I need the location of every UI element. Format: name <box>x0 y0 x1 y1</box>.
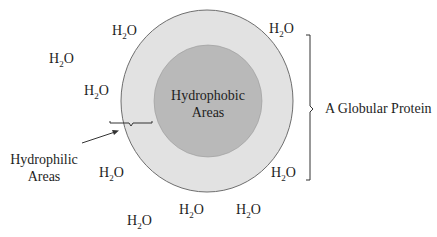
globular-protein-diagram: Hydrophobic Areas Hydrophilic Areas A Gl… <box>0 0 437 237</box>
water-label: H2O <box>84 83 109 101</box>
surface-label-line2: Areas <box>28 169 61 184</box>
water-label: H2O <box>49 51 74 69</box>
water-label: H2O <box>99 165 124 183</box>
water-label: H2O <box>179 202 204 220</box>
protein-brace <box>306 35 313 180</box>
hydrophilic-arrow <box>82 130 119 143</box>
water-label: H2O <box>271 165 296 183</box>
protein-label: A Globular Protein <box>325 101 432 116</box>
water-label: H2O <box>127 213 152 231</box>
water-label: H2O <box>269 21 294 39</box>
surface-label-line1: Hydrophilic <box>10 152 78 167</box>
core-label-line2: Areas <box>192 105 225 120</box>
water-label: H2O <box>236 202 261 220</box>
core-label-line1: Hydrophobic <box>171 88 245 103</box>
water-label: H2O <box>112 23 137 41</box>
